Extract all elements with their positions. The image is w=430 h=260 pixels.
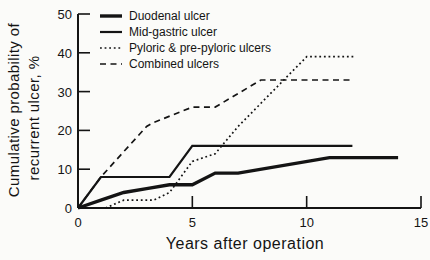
series-line-combined-ulcers [78,80,352,208]
y-tick-label-20: 20 [58,123,72,138]
x-axis-label: Years after operation [166,235,324,253]
legend-line-sample [100,60,122,68]
legend-line-sample [100,28,122,36]
legend-line-sample [100,44,122,52]
legend: Duodenal ulcerMid-gastric ulcerPyloric &… [100,9,271,70]
x-tick-label-5: 5 [189,215,196,230]
legend-line-sample [100,12,122,20]
legend-item-combined-ulcers: Combined ulcers [100,57,271,70]
y-axis-label-line2: recurrent ulcer, % [25,56,42,181]
legend-label: Duodenal ulcer [129,9,210,23]
recurrent-ulcer-chart: Cumulative probability of recurrent ulce… [0,0,430,260]
legend-label: Combined ulcers [129,57,219,71]
y-tick-label-50: 50 [58,7,72,22]
series-line-mid-gastric-ulcer [78,146,352,208]
legend-label: Pyloric & pre-pyloric ulcers [129,41,271,55]
y-tick-label-10: 10 [58,162,72,177]
legend-item-pyloric-pre-pyloric-ulcers: Pyloric & pre-pyloric ulcers [100,41,271,54]
y-tick-label-40: 40 [58,45,72,60]
legend-label: Mid-gastric ulcer [129,25,217,39]
legend-item-mid-gastric-ulcer: Mid-gastric ulcer [100,25,271,38]
y-axis-label-line1: Cumulative probability of [5,23,22,197]
x-tick-label-15: 15 [414,215,428,230]
x-tick-label-0: 0 [74,215,81,230]
legend-item-duodenal-ulcer: Duodenal ulcer [100,9,271,22]
series-line-duodenal-ulcer [78,158,398,208]
x-tick-label-10: 10 [299,215,313,230]
y-tick-label-0: 0 [65,201,72,216]
y-tick-label-30: 30 [58,84,72,99]
